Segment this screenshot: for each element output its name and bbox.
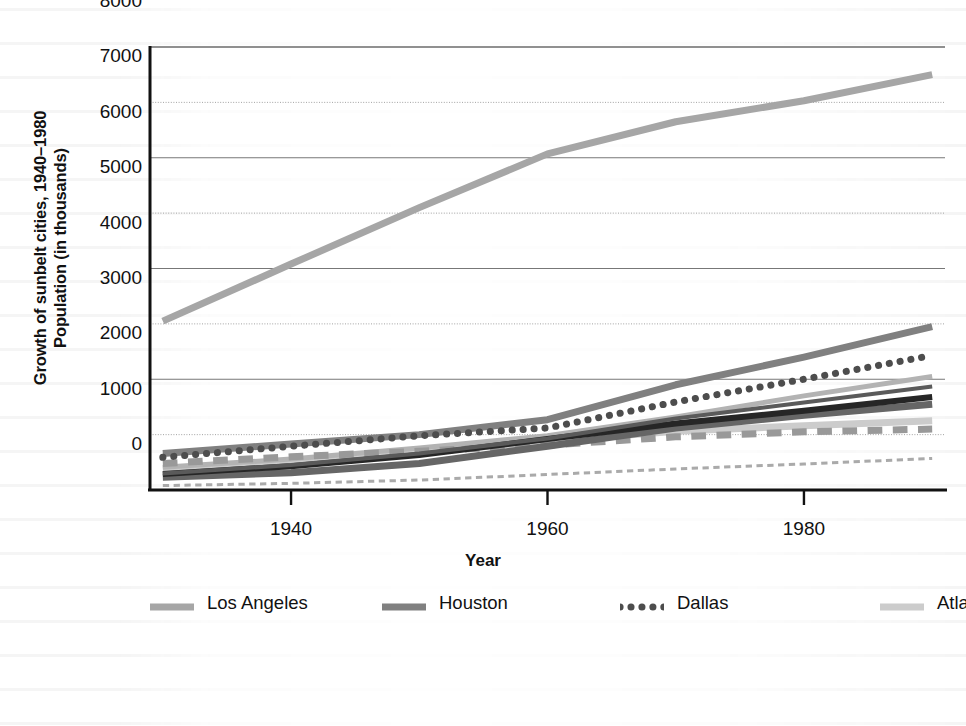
legend-item: Dallas xyxy=(620,594,880,613)
legend-item: Houston xyxy=(382,594,620,613)
x-axis-title: Year xyxy=(0,551,966,571)
x-tick-label: 1940 xyxy=(270,519,312,538)
legend-label: Dallas xyxy=(677,594,728,613)
sunbelt-cities-line-chart: Growth of sunbelt cities, 1940–1980 Popu… xyxy=(0,0,966,726)
y-tick-label: 1000 xyxy=(100,378,142,397)
y-tick-label: 3000 xyxy=(100,267,142,286)
legend-swatch-icon xyxy=(620,599,664,608)
legend-label: Los Angeles xyxy=(207,594,308,613)
legend-item: Atlanta xyxy=(880,594,966,613)
series-line-los-angeles xyxy=(163,75,932,321)
y-tick-label: 5000 xyxy=(100,157,142,176)
y-axis-title-line-1: Growth of sunbelt cities, 1940–1980 xyxy=(30,111,50,385)
x-tick-label: 1960 xyxy=(526,519,568,538)
y-tick-label: 6000 xyxy=(100,101,142,120)
y-tick-label: 4000 xyxy=(100,212,142,231)
legend-swatch-icon xyxy=(150,599,194,608)
plot-area xyxy=(150,47,945,490)
legend-label: Atlanta xyxy=(937,594,966,613)
y-axis-title-line-2: Population (in thousands) xyxy=(50,148,70,348)
chart-legend: Los AngelesHoustonDallasAtlantaSan Diego… xyxy=(150,588,940,716)
y-axis-title: Growth of sunbelt cities, 1940–1980 Popu… xyxy=(12,3,88,493)
y-tick-label: 0 xyxy=(131,434,142,453)
legend-item: Los Angeles xyxy=(150,594,382,613)
y-axis-tick-labels: 010002000300040005000600070008000 xyxy=(96,0,142,540)
y-tick-label: 8000 xyxy=(100,0,142,10)
legend-swatch-icon xyxy=(880,599,924,608)
legend-swatch-icon xyxy=(382,599,426,608)
y-tick-label: 7000 xyxy=(100,46,142,65)
y-tick-label: 2000 xyxy=(100,323,142,342)
x-tick-label: 1980 xyxy=(783,519,825,538)
plot-svg xyxy=(150,47,945,490)
legend-label: Houston xyxy=(439,594,508,613)
